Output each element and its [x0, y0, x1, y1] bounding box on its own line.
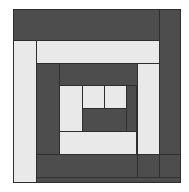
log-13-ring4-left — [13, 40, 37, 183]
log-6-ring2-bottom — [59, 131, 137, 155]
log-cabin-block — [13, 9, 181, 183]
center-square — [104, 85, 127, 109]
log-3-center-right — [126, 85, 137, 132]
log-14-border-top — [13, 9, 181, 41]
log-7-ring2-right — [137, 63, 160, 155]
log-12-ring4-top — [36, 40, 160, 64]
quilt-canvas — [0, 0, 189, 192]
